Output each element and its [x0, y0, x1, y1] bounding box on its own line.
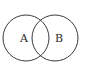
set-a-label: A	[19, 32, 29, 45]
set-b-label: B	[55, 32, 63, 45]
venn-diagram: A B	[0, 0, 86, 67]
